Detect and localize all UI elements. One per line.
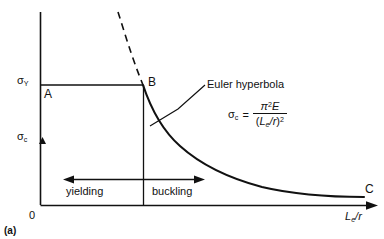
formula-fraction: π2E (Le/r)2 xyxy=(253,100,287,129)
sigma-y-subscript: Y xyxy=(24,80,29,88)
euler-hyperbola-dashed-extension xyxy=(118,12,143,85)
sigma-c-glyph: σ xyxy=(17,130,24,142)
euler-hyperbola-caption: Euler hyperbola xyxy=(207,79,284,90)
formula-pi-glyph: π xyxy=(261,100,268,112)
figure-caption: (a) xyxy=(4,226,16,236)
point-b-label: B xyxy=(148,76,156,88)
buckling-arrow-icon xyxy=(194,176,205,184)
formula-numerator: π2E xyxy=(258,100,283,113)
sigma-y-glyph: σ xyxy=(17,74,24,86)
x-axis-arrow-icon xyxy=(366,201,378,210)
point-a-label: A xyxy=(44,88,52,100)
formula-denominator: (Le/r)2 xyxy=(253,114,287,129)
y-axis-label-sigma-c: σc xyxy=(17,131,27,144)
euler-formula: σc = π2E (Le/r)2 xyxy=(228,100,287,129)
formula-denominator-exponent: 2 xyxy=(280,116,284,124)
yielding-arrow-icon xyxy=(63,176,74,184)
formula-lhs: σc xyxy=(228,108,238,122)
region-label-yielding: yielding xyxy=(66,186,103,197)
sigma-c-subscript: c xyxy=(24,136,28,144)
figure-canvas xyxy=(0,0,384,239)
formula-sigma-subscript: c xyxy=(235,114,239,122)
x-axis-label-tail: /r xyxy=(355,210,362,222)
formula-e-glyph: E xyxy=(272,100,279,112)
figure-column-buckling-curve: σY σc 0 Le/r A B C yielding buckling Eul… xyxy=(0,0,384,239)
x-axis-label: Le/r xyxy=(345,211,362,224)
formula-sigma-glyph: σ xyxy=(228,108,235,120)
y-axis-label-sigma-y: σY xyxy=(17,75,29,88)
region-label-buckling: buckling xyxy=(152,186,192,197)
point-c-label: C xyxy=(365,183,374,195)
origin-label: 0 xyxy=(29,210,35,221)
formula-equals-sign: = xyxy=(242,109,248,121)
